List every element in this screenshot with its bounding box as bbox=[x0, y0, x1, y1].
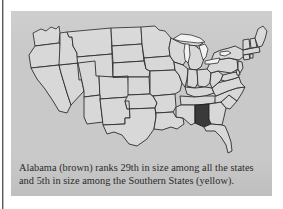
state-florida bbox=[204, 124, 232, 153]
state-vermont bbox=[243, 39, 250, 50]
figure-caption: Alabama (brown) ranks 29th in size among… bbox=[19, 161, 265, 187]
state-colorado bbox=[99, 76, 129, 99]
caption-line-1: Alabama (brown) ranks 29th in size among… bbox=[19, 161, 265, 174]
state-missouri bbox=[150, 70, 182, 96]
state-south-dakota bbox=[112, 44, 144, 63]
state-north-dakota bbox=[111, 27, 142, 46]
state-oregon bbox=[29, 43, 61, 68]
state-iowa bbox=[144, 56, 175, 71]
state-minnesota bbox=[141, 26, 171, 58]
state-new-jersey bbox=[238, 61, 243, 73]
caption-line-2: and 5th in size among the Southern State… bbox=[19, 174, 265, 187]
state-ohio bbox=[197, 69, 211, 87]
state-kentucky bbox=[185, 87, 214, 97]
page-gutter-shadow bbox=[3, 0, 4, 209]
lake-michigan bbox=[184, 44, 190, 63]
us-map-svg bbox=[15, 13, 268, 159]
state-indiana bbox=[187, 69, 198, 88]
us-map bbox=[15, 13, 268, 159]
figure-page: Alabama (brown) ranks 29th in size among… bbox=[0, 0, 283, 209]
state-rhode-island bbox=[250, 54, 253, 58]
state-nebraska bbox=[113, 61, 150, 77]
figure-panel: Alabama (brown) ranks 29th in size among… bbox=[11, 11, 272, 196]
state-arkansas bbox=[153, 94, 176, 113]
state-oklahoma bbox=[125, 94, 157, 109]
state-maine bbox=[255, 26, 267, 47]
